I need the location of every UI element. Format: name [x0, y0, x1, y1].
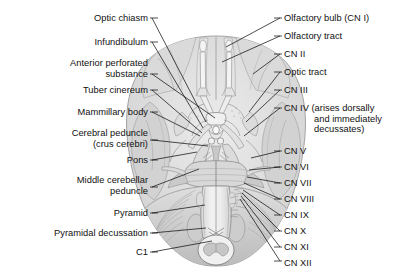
leader-middle-cerebellar-ped — [152, 169, 199, 187]
label-cn-12: CN XII — [284, 258, 312, 269]
label-line: Optic chiasm — [94, 13, 148, 24]
label-line: CN V — [284, 146, 306, 157]
leader-pyramid — [152, 205, 205, 213]
label-cn-10: CN X — [284, 226, 306, 237]
leader-cn-5 — [251, 151, 280, 158]
label-line: Middle cerebellar — [77, 175, 148, 186]
label-pyramid: Pyramid — [114, 208, 148, 219]
label-line: (crus cerebri) — [72, 139, 148, 150]
label-cn-7: CN VII — [284, 178, 312, 189]
label-line: Olfactory bulb (CN I) — [284, 13, 369, 24]
label-olfactory-bulb: Olfactory bulb (CN I) — [284, 13, 369, 24]
label-line: CN XII — [284, 258, 312, 269]
label-line: and immediately — [284, 114, 382, 125]
label-line: peduncle — [77, 186, 148, 197]
brain-anatomy-figure: Optic chiasmInfundibulumAnterior perfora… — [0, 0, 414, 275]
leader-olfactory-tract — [222, 36, 280, 62]
leader-cn-7 — [247, 177, 280, 183]
leader-infundibulum — [152, 42, 203, 128]
label-line: CN II — [284, 49, 305, 60]
label-line: CN IX — [284, 210, 309, 221]
label-middle-cerebellar-peduncle: Middle cerebellarpeduncle — [77, 175, 148, 196]
label-cn-8: CN VIII — [284, 194, 314, 205]
label-optic-tract: Optic tract — [284, 67, 327, 78]
leader-olfactory-bulb — [226, 18, 280, 47]
leader-anterior-perforated — [152, 74, 215, 118]
label-cn-11: CN XI — [284, 242, 309, 253]
label-line: decussates) — [284, 124, 382, 135]
leader-cn-4 — [244, 108, 280, 136]
leader-cn-3 — [246, 90, 280, 122]
leader-tuber-cinereum — [152, 90, 202, 133]
label-cn-6: CN VI — [284, 162, 309, 173]
leader-c1 — [152, 241, 212, 252]
label-line: CN III — [284, 85, 308, 96]
label-line: Pyramidal decussation — [54, 228, 148, 239]
leader-cn-11 — [241, 196, 280, 247]
label-c1: C1 — [136, 247, 148, 258]
leader-cn-8 — [244, 183, 280, 199]
leader-cn-12 — [240, 199, 280, 261]
label-line: Pons — [127, 155, 148, 166]
label-line: CN VI — [284, 162, 309, 173]
label-line: CN X — [284, 226, 306, 237]
label-optic-chiasm: Optic chiasm — [94, 13, 148, 24]
label-line: Anterior perforated — [70, 58, 148, 69]
label-cn-4: CN IV (arises dorsallyand immediatelydec… — [284, 103, 382, 135]
label-line: Infundibulum — [95, 37, 148, 48]
label-infundibulum: Infundibulum — [95, 37, 148, 48]
label-olfactory-tract: Olfactory tract — [284, 31, 342, 42]
leader-pons — [152, 152, 197, 160]
label-cn-2: CN II — [284, 49, 305, 60]
label-line: C1 — [136, 247, 148, 258]
leader-cn-2 — [253, 54, 280, 74]
leader-mammillary-body — [152, 112, 200, 136]
label-anterior-perforated-substance: Anterior perforatedsubstance — [70, 58, 148, 79]
label-cerebral-peduncle: Cerebral peduncle(crus cerebri) — [72, 128, 148, 149]
label-cn-3: CN III — [284, 85, 308, 96]
label-pons: Pons — [127, 155, 148, 166]
label-line: Tuber cinereum — [83, 85, 148, 96]
leader-cn-6 — [249, 167, 280, 170]
label-line: CN IV (arises dorsally — [284, 103, 382, 114]
label-tuber-cinereum: Tuber cinereum — [83, 85, 148, 96]
label-line: Olfactory tract — [284, 31, 342, 42]
label-line: CN VIII — [284, 194, 314, 205]
label-line: Pyramid — [114, 208, 148, 219]
label-cn-5: CN V — [284, 146, 306, 157]
label-cn-9: CN IX — [284, 210, 309, 221]
label-pyramidal-decussation: Pyramidal decussation — [54, 228, 148, 239]
label-line: Mammillary body — [77, 107, 148, 118]
leader-optic-tract — [249, 72, 280, 112]
label-line: CN VII — [284, 178, 312, 189]
label-mammillary-body: Mammillary body — [77, 107, 148, 118]
label-line: Cerebral peduncle — [72, 128, 148, 139]
leader-pyramidal-decussation — [152, 228, 206, 233]
leader-cn-9 — [243, 190, 280, 215]
label-line: Optic tract — [284, 67, 327, 78]
leader-cerebral-peduncle — [152, 140, 208, 146]
label-line: substance — [70, 69, 148, 80]
label-line: CN XI — [284, 242, 309, 253]
